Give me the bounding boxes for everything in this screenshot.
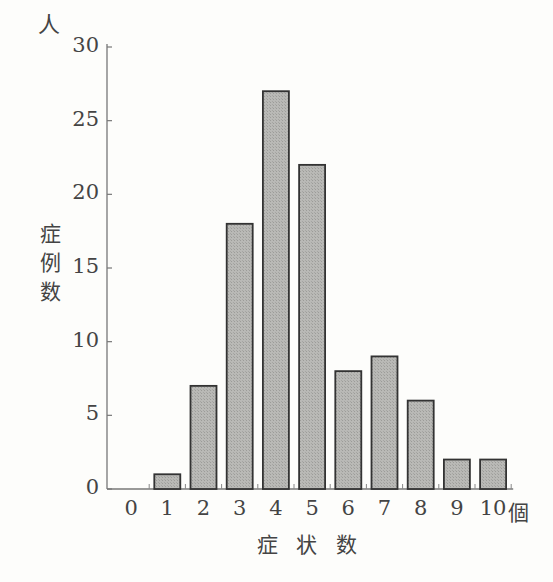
x-axis-title: 症 状 数 xyxy=(200,528,420,558)
bar-1 xyxy=(154,474,180,489)
y-title-char: 数 xyxy=(38,278,62,307)
bar-9 xyxy=(444,460,470,489)
x-unit-label: 個 xyxy=(508,496,529,526)
x-tick-label: 4 xyxy=(256,496,296,520)
x-tick-label: 9 xyxy=(437,496,477,520)
x-tick-label: 6 xyxy=(328,496,368,520)
figure-caption xyxy=(30,574,530,582)
x-tick-label: 0 xyxy=(111,496,151,520)
x-tick-label: 5 xyxy=(292,496,332,520)
bar-6 xyxy=(335,371,361,489)
bar-2 xyxy=(191,386,217,489)
bar-10 xyxy=(480,460,506,489)
bar-4 xyxy=(263,91,289,489)
y-unit-label: 人 xyxy=(38,6,60,38)
x-tick-label: 7 xyxy=(365,496,405,520)
y-tick-label: 10 xyxy=(59,328,99,352)
y-tick-label: 30 xyxy=(59,33,99,57)
bar-5 xyxy=(299,165,325,489)
x-tick-label: 3 xyxy=(220,496,260,520)
y-tick-label: 0 xyxy=(59,475,99,499)
y-tick-label: 5 xyxy=(59,401,99,425)
x-tick-label: 1 xyxy=(147,496,187,520)
x-tick-label: 2 xyxy=(184,496,224,520)
bars xyxy=(154,91,506,489)
x-tick-label: 8 xyxy=(401,496,441,520)
y-tick-label: 20 xyxy=(59,180,99,204)
y-tick-label: 15 xyxy=(59,254,99,278)
y-title-char: 症 xyxy=(38,220,62,249)
bar-8 xyxy=(408,401,434,489)
bar-3 xyxy=(227,224,253,489)
bar-7 xyxy=(372,356,398,489)
y-tick-label: 25 xyxy=(59,107,99,131)
